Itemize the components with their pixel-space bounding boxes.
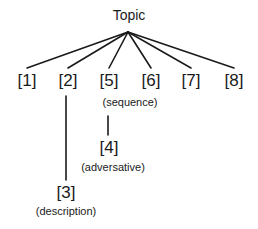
node-7: [7] (182, 72, 201, 89)
description-annotation: (description) (36, 206, 97, 217)
node-4: [4] (100, 139, 119, 156)
node-3: [3] (57, 184, 76, 201)
topic-root-label: Topic (113, 8, 146, 22)
node-2: [2] (59, 72, 78, 89)
edge-topic-6 (128, 32, 151, 68)
diagram-edges (0, 0, 258, 229)
adversative-annotation: (adversative) (81, 162, 145, 173)
node-8: [8] (225, 72, 244, 89)
node-5: [5] (100, 72, 119, 89)
node-1: [1] (18, 72, 37, 89)
sequence-annotation: (sequence) (102, 97, 157, 108)
node-6: [6] (142, 72, 161, 89)
